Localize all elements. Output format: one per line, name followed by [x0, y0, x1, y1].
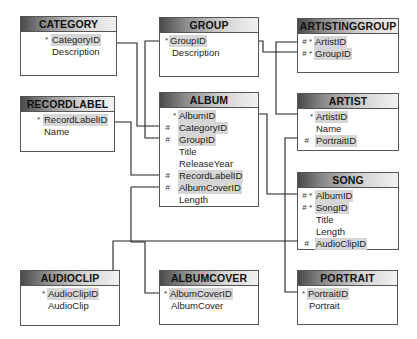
attr-title[interactable]: Title — [160, 146, 258, 158]
entity-title: ALBUM — [160, 93, 258, 108]
attr-portraitid[interactable]: * PortraitID — [298, 288, 397, 300]
entity-category[interactable]: CATEGORY * CategoryID Description — [20, 16, 117, 76]
attr-groupid[interactable]: # GroupID — [160, 134, 258, 146]
entity-title: RECORDLABEL — [21, 97, 114, 112]
attr-artistid[interactable]: * ArtistID — [298, 111, 398, 123]
attr-albumcover[interactable]: AlbumCover — [160, 300, 258, 312]
attr-albumid[interactable]: # * AlbumID — [298, 190, 398, 202]
attr-albumid[interactable]: * AlbumID — [160, 110, 258, 122]
rel-artist-artistinggroup — [276, 42, 298, 114]
rel-recordlabel-album — [108, 122, 166, 175]
attr-description[interactable]: Description — [21, 46, 116, 58]
attr-recordlabelid[interactable]: * RecordLabelID — [21, 114, 114, 126]
attr-length[interactable]: Length — [160, 194, 258, 206]
attr-albumcoverid[interactable]: * AlbumCoverID — [160, 288, 258, 300]
entity-portrait[interactable]: PORTRAIT * PortraitID Portrait — [297, 270, 398, 325]
attr-description[interactable]: Description — [160, 47, 258, 59]
entity-song[interactable]: SONG # * AlbumID # * SongID Title Length… — [297, 172, 399, 250]
attr-name[interactable]: Name — [21, 126, 114, 138]
entity-title: SONG — [298, 173, 398, 188]
attr-albumcoverid[interactable]: # AlbumCoverID — [160, 182, 258, 194]
entity-artistinggroup[interactable]: ARTISTINGGROUP # * ArtistID # * GroupID — [297, 18, 399, 73]
attr-recordlabelid[interactable]: # RecordLabelID — [160, 170, 258, 182]
attr-name[interactable]: Name — [298, 123, 398, 135]
attr-songid[interactable]: # * SongID — [298, 202, 398, 214]
attr-length[interactable]: Length — [298, 226, 398, 238]
attr-groupid[interactable]: # * GroupID — [298, 48, 398, 60]
entity-recordlabel[interactable]: RECORDLABEL * RecordLabelID Name — [20, 96, 115, 152]
attr-categoryid[interactable]: # CategoryID — [160, 122, 258, 134]
entity-audioclip[interactable]: AUDIOCLIP * AudioClipID AudioClip — [20, 270, 120, 326]
entity-title: ARTIST — [298, 94, 398, 109]
entity-title: ALBUMCOVER — [160, 271, 258, 286]
entity-album[interactable]: ALBUM * AlbumID # CategoryID # GroupID T… — [159, 92, 259, 207]
entity-title: ARTISTINGGROUP — [298, 19, 398, 34]
entity-artist[interactable]: ARTIST * ArtistID Name # PortraitID — [297, 93, 399, 151]
attr-portraitid[interactable]: # PortraitID — [298, 135, 398, 147]
entity-title: PORTRAIT — [298, 271, 397, 286]
attr-releaseyear[interactable]: ReleaseYear — [160, 158, 258, 170]
attr-portrait[interactable]: Portrait — [298, 300, 397, 312]
entity-group[interactable]: GROUP * GroupID Description — [159, 17, 259, 77]
attr-groupid[interactable]: * GroupID — [160, 35, 258, 47]
attr-audioclip[interactable]: AudioClip — [21, 300, 119, 312]
entity-title: AUDIOCLIP — [21, 271, 119, 286]
attr-title[interactable]: Title — [298, 214, 398, 226]
entity-albumcover[interactable]: ALBUMCOVER * AlbumCoverID AlbumCover — [159, 270, 259, 325]
attr-artistid[interactable]: # * ArtistID — [298, 36, 398, 48]
attr-categoryid[interactable]: * CategoryID — [21, 34, 116, 46]
entity-title: CATEGORY — [21, 17, 116, 32]
attr-audioclipid[interactable]: # AudioClipID — [298, 238, 398, 250]
er-diagram: CATEGORY * CategoryID Description GROUP … — [0, 0, 417, 339]
attr-audioclipid[interactable]: * AudioClipID — [21, 288, 119, 300]
entity-title: GROUP — [160, 18, 258, 33]
